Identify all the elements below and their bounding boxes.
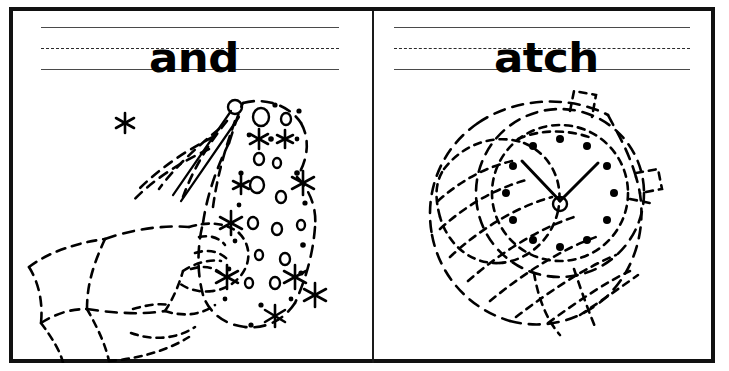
picture-wrist-watch (374, 77, 711, 363)
handwriting-guide-right: atch (394, 25, 690, 75)
panel-right: atch (374, 11, 711, 363)
handwriting-guide-left: and (41, 25, 339, 75)
panel-left: and (13, 11, 372, 363)
worksheet: and (0, 0, 729, 371)
guide-line-top-left (41, 27, 339, 28)
word-and: and (149, 38, 239, 79)
picture-magic-wand (13, 77, 372, 363)
worksheet-frame: and (9, 7, 715, 363)
guide-line-top-right (394, 27, 690, 28)
word-atch: atch (494, 38, 599, 79)
